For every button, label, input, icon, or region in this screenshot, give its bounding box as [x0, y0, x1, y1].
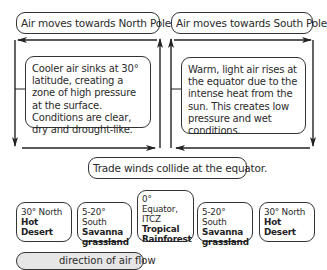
biome-name: Savanna grassland: [202, 227, 248, 247]
biome-hot-desert-left: 30° North Hot Desert: [16, 202, 72, 242]
trade-winds-label: Trade winds collide at the equator.: [88, 157, 247, 179]
biome-location: 30° North: [21, 207, 62, 217]
south-pole-label: Air moves towards South Pole.: [171, 12, 313, 34]
biome-name: Tropical Rainforest: [142, 224, 189, 244]
biome-name: Hot Desert: [21, 217, 67, 237]
biome-rainforest: 0° Equator, ITCZ Tropical Rainforest: [137, 190, 194, 242]
legend-label: direction of air flow: [59, 255, 156, 267]
low-pressure-description: Warm, light air rises at the equator due…: [181, 57, 306, 134]
north-pole-label: Air moves towards North Pole.: [16, 12, 160, 34]
high-pressure-description: Cooler air sinks at 30° latitude, creati…: [25, 56, 151, 128]
biome-location: 0° Equator, ITCZ: [142, 194, 178, 224]
biome-name: Hot Desert: [264, 217, 310, 237]
biome-savanna-right: 5-20° South Savanna grassland: [197, 202, 253, 242]
biome-location: 5-20° South: [82, 207, 107, 227]
biome-name: Savanna grassland: [82, 227, 127, 247]
biome-location: 30° North: [264, 207, 305, 217]
legend: direction of air flow: [16, 252, 144, 270]
biome-location: 5-20° South: [202, 207, 227, 227]
biome-hot-desert-right: 30° North Hot Desert: [259, 202, 315, 242]
biome-savanna-left: 5-20° South Savanna grassland: [77, 202, 132, 242]
